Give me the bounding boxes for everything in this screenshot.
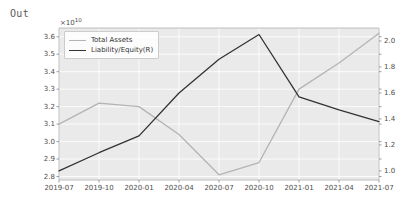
- y-left-tick-label: 3.6: [30, 33, 55, 41]
- chart-figure: [0, 0, 409, 207]
- x-tick-label: 2020-10: [239, 184, 279, 192]
- y-right-tick-label: 1.2: [384, 141, 395, 149]
- legend-item-total-assets: Total Assets: [69, 35, 153, 45]
- x-tick-label: 2021-07: [359, 184, 399, 192]
- legend-label-liability-equity: Liability/Equity(R): [91, 45, 153, 55]
- y-right-tick-label: 1.6: [384, 89, 395, 97]
- legend-label-total-assets: Total Assets: [91, 35, 132, 45]
- y-left-tick-label: 3.1: [30, 120, 55, 128]
- legend-item-liability-equity: Liability/Equity(R): [69, 45, 153, 55]
- chart-legend: Total Assets Liability/Equity(R): [64, 31, 159, 59]
- y-left-tick-label: 3.5: [30, 50, 55, 58]
- y-left-tick-label: 3.0: [30, 138, 55, 146]
- y-left-tick-label: 2.9: [30, 155, 55, 163]
- y-left-tick-label: 3.3: [30, 85, 55, 93]
- x-tick-label: 2019-10: [79, 184, 119, 192]
- y-right-tick-label: 1.8: [384, 63, 395, 71]
- x-tick-label: 2020-04: [159, 184, 199, 192]
- x-tick-label: 2021-04: [319, 184, 359, 192]
- x-tick-label: 2020-07: [199, 184, 239, 192]
- x-tick-label: 2020-01: [119, 184, 159, 192]
- legend-swatch-total-assets: [69, 40, 86, 41]
- y-right-tick-label: 1.4: [384, 115, 395, 123]
- y-right-tick-label: 2.0: [384, 37, 395, 45]
- y-left-tick-label: 3.2: [30, 103, 55, 111]
- x-tick-label: 2021-01: [279, 184, 319, 192]
- jupyter-output-cell: Out ×1010 2.82.93.03.13.23.33.43.53.6 1.…: [0, 0, 409, 207]
- y-left-tick-label: 2.8: [30, 173, 55, 181]
- y-left-tick-label: 3.4: [30, 68, 55, 76]
- y-right-tick-label: 1.0: [384, 167, 395, 175]
- x-tick-label: 2019-07: [39, 184, 79, 192]
- legend-swatch-liability-equity: [69, 50, 86, 51]
